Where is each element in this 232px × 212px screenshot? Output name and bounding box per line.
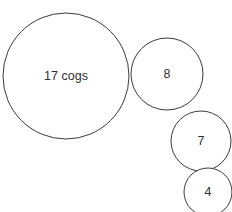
circle-4-label: 4 — [205, 185, 212, 199]
circle-diagram-canvas: 17 cogs 8 7 4 — [0, 0, 232, 212]
circle-7-label: 7 — [198, 134, 205, 148]
circle-17-cogs-label: 17 cogs — [44, 69, 88, 83]
circle-8-label: 8 — [164, 67, 171, 81]
circle-cluster-graphic: 17 cogs 8 7 4 — [0, 0, 232, 212]
